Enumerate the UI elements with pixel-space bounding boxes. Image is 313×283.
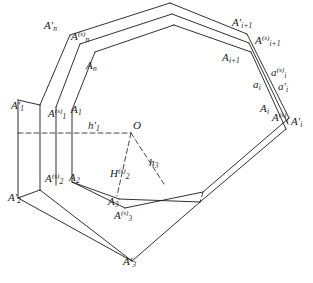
label-Ai_prime: A′i <box>291 116 302 129</box>
edge-segment <box>119 199 200 202</box>
edge-segment <box>80 14 172 44</box>
edge-segment <box>95 25 174 52</box>
label-A2_prime: A′2 <box>8 192 21 205</box>
label-h1_prime: h′1 <box>88 120 100 133</box>
label-ai_prime: a′i <box>278 81 288 94</box>
label-A1_prime: A′1 <box>11 100 24 113</box>
label-A3: A3 <box>108 196 119 209</box>
label-A2_s: A(s)2 <box>45 173 63 186</box>
label-An_s: A(s)n <box>71 31 89 44</box>
label-Ai_s: A(s)i <box>272 112 289 125</box>
label-An: An <box>86 60 97 73</box>
edge-segment <box>200 129 286 202</box>
edge-segment <box>132 202 200 261</box>
label-An_prime: A′n <box>44 20 57 33</box>
edge-segment <box>131 133 164 184</box>
label-A3_prime: A′3 <box>123 256 136 269</box>
label-Ai1: Ai+1 <box>222 52 240 65</box>
edge-segment <box>56 44 80 107</box>
label-Ai1_s: A(s)i+1 <box>255 35 280 48</box>
geometry-figure: A′nA(s)nAnA′i+1A(s)i+1Ai+1a(s)iaia′iAiA(… <box>0 0 313 283</box>
label-O: O <box>133 120 141 131</box>
label-H2_s: H(s)2 <box>110 168 129 181</box>
label-A3_s: A(s)3 <box>114 210 132 223</box>
label-ai_s: a(s)i <box>271 67 286 80</box>
label-Ai: Ai <box>260 103 269 116</box>
edge-segment <box>18 190 40 198</box>
label-ai: ai <box>253 79 261 92</box>
label-A1: A1 <box>71 104 82 117</box>
edge-segment <box>117 133 131 196</box>
label-h3: h3 <box>149 157 158 170</box>
edge-segment <box>40 35 70 105</box>
label-A2: A2 <box>69 172 80 185</box>
label-A1_s: A(s)1 <box>48 108 66 121</box>
edge-segment <box>203 118 289 192</box>
label-Ai1_prime: A′i+1 <box>232 17 252 30</box>
solid-edges <box>18 3 289 261</box>
